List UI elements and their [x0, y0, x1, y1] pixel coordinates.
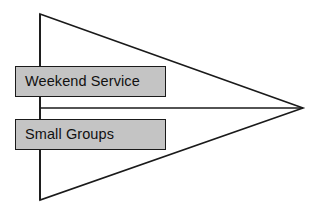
funnel-shape-group	[0, 0, 321, 216]
stage-label: Small Groups	[25, 127, 114, 142]
triangle-outline	[40, 14, 303, 200]
stage-label: Weekend Service	[25, 74, 140, 89]
diagram-canvas: Weekend Service Small Groups	[0, 0, 321, 216]
stage-box-weekend-service[interactable]: Weekend Service	[15, 66, 166, 97]
stage-box-small-groups[interactable]: Small Groups	[15, 119, 166, 150]
